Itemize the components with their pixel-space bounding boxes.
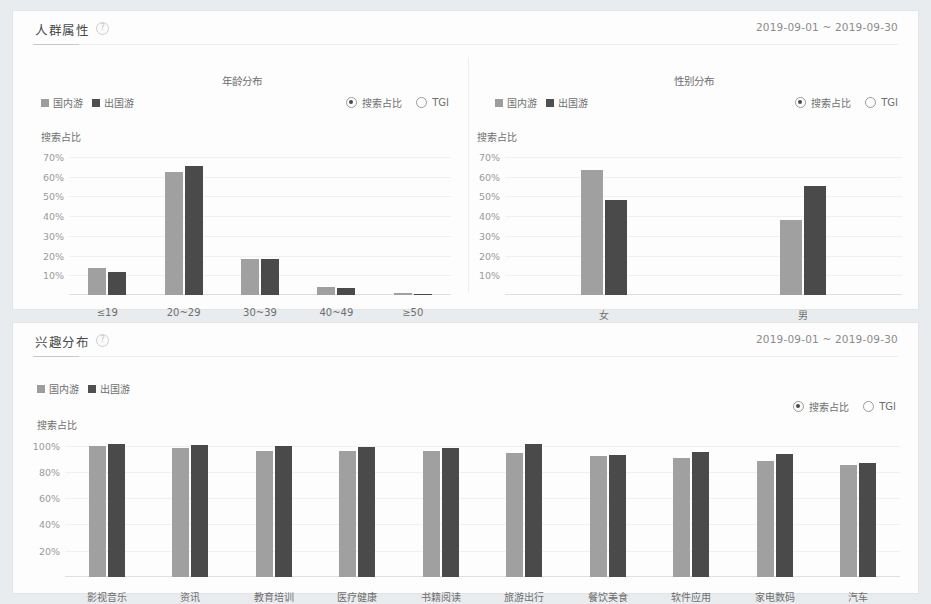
legend-item-domestic[interactable]: 国内游 [37,381,79,396]
bar[interactable] [275,446,292,577]
radio-label-search-share: 搜索占比 [362,95,402,110]
bar-group [483,435,567,577]
bar[interactable] [780,220,802,295]
legend-item-abroad[interactable]: 出国游 [546,95,588,110]
y-axis-tick-label: 40% [39,519,60,530]
legend-item-abroad[interactable]: 出国游 [92,95,134,110]
x-axis-tick-label: 书籍阅读 [399,589,483,604]
dashboard-page: 人群属性 ? 2019-09-01 ~ 2019-09-30 年龄分布 国内游 … [0,0,931,604]
x-axis-tick-label: 教育培训 [232,589,316,604]
legend-item-abroad[interactable]: 出国游 [88,381,130,396]
bar-group [817,435,901,577]
radio-search-share-interest[interactable]: 搜索占比 [793,399,849,414]
bar[interactable] [394,293,412,295]
bar[interactable] [317,287,335,295]
bar[interactable] [442,448,459,578]
age-metric-toggle: 搜索占比 TGI [346,95,449,110]
interest-plot-area: 20%40%60%80%100% [65,435,900,577]
legend-item-domestic[interactable]: 国内游 [41,95,83,110]
legend-swatch-abroad-icon [546,99,554,107]
radio-selected-icon [346,97,357,108]
bar[interactable] [108,272,126,295]
bar[interactable] [804,186,826,295]
legend-swatch-abroad-icon [88,385,96,393]
bar[interactable] [358,447,375,577]
age-chart-title: 年龄分布 [17,73,467,88]
y-axis-tick-label: 70% [479,151,500,162]
bar[interactable] [423,451,440,577]
bar[interactable] [692,452,709,577]
help-circle-icon[interactable]: ? [96,22,109,35]
bar[interactable] [185,166,203,295]
bar[interactable] [673,458,690,577]
bar-group [222,147,298,295]
bar-group [704,147,903,295]
gender-plot-area: 10%20%30%40%50%60%70% [505,147,902,295]
bar-group [733,435,817,577]
bar[interactable] [506,453,523,577]
age-chart-legend: 国内游 出国游 [41,95,134,110]
bar[interactable] [581,170,603,295]
help-circle-icon[interactable]: ? [96,334,109,347]
y-axis-tick-label: 50% [43,191,64,202]
bar[interactable] [859,463,876,577]
y-axis-tick-label: 60% [39,493,60,504]
y-axis-tick-label: 10% [479,270,500,281]
bar[interactable] [241,259,259,296]
y-axis-tick-label: 30% [479,230,500,241]
radio-tgi-interest[interactable]: TGI [863,401,896,412]
bar[interactable] [88,268,106,295]
x-axis-tick-label: 20~29 [145,307,221,318]
bar[interactable] [261,259,279,295]
x-axis-tick-label: 旅游出行 [483,589,567,604]
legend-swatch-domestic-icon [41,99,49,107]
bar[interactable] [89,446,106,577]
radio-search-share-gender[interactable]: 搜索占比 [795,95,851,110]
radio-tgi-age[interactable]: TGI [416,97,449,108]
panel-vertical-divider [468,57,469,293]
radio-tgi-gender[interactable]: TGI [865,97,898,108]
bar-group [69,147,145,295]
y-axis-tick-label: 100% [33,440,60,451]
bar[interactable] [414,294,432,295]
interest-date-range: 2019-09-01 ~ 2019-09-30 [756,333,898,345]
bar-group [145,147,221,295]
crowd-panel-divider [33,44,898,45]
bar[interactable] [172,448,189,578]
legend-label-abroad: 出国游 [558,95,588,110]
bar[interactable] [337,288,355,295]
bar[interactable] [525,444,542,577]
bar-group [375,147,451,295]
radio-label-tgi: TGI [881,97,898,108]
y-axis-tick-label: 40% [43,211,64,222]
bar-group [298,147,374,295]
y-axis-tick-label: 20% [479,250,500,261]
y-axis-tick-label: 70% [43,151,64,162]
radio-selected-icon [795,97,806,108]
age-distribution-chart: 年龄分布 国内游 出国游 搜索占比 TGI [17,51,467,303]
bar-group [232,435,316,577]
bar[interactable] [339,451,356,577]
bar[interactable] [609,455,626,577]
bar[interactable] [605,200,627,295]
bar[interactable] [840,465,857,577]
crowd-date-range: 2019-09-01 ~ 2019-09-30 [756,21,898,33]
bar[interactable] [757,461,774,577]
bar[interactable] [590,456,607,577]
bar[interactable] [256,451,273,577]
x-axis-tick-label: 女 [505,307,704,322]
radio-label-tgi: TGI [879,401,896,412]
y-axis-tick-label: 20% [43,250,64,261]
x-axis-tick-label: 医疗健康 [316,589,400,604]
legend-label-abroad: 出国游 [104,95,134,110]
legend-item-domestic[interactable]: 国内游 [495,95,537,110]
y-axis-tick-label: 30% [43,230,64,241]
bar[interactable] [191,445,208,577]
radio-search-share-age[interactable]: 搜索占比 [346,95,402,110]
x-axis-tick-label: ≥50 [375,307,451,318]
y-axis-tick-label: 50% [479,191,500,202]
bar[interactable] [776,454,793,577]
bar[interactable] [165,172,183,295]
bar-group [65,435,149,577]
bar[interactable] [108,444,125,577]
